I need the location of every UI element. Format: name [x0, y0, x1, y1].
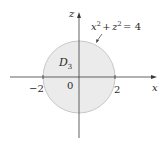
z-axis-label: z	[68, 8, 75, 19]
x-axis-arrow-icon	[151, 75, 157, 79]
tick-label-pos-2: 2	[114, 84, 120, 95]
disk-diagram: z x x2+z2= 4 D3 −2 0 2	[0, 0, 166, 145]
equation-label: x2+z2= 4	[91, 20, 141, 32]
x-axis-label: x	[152, 82, 158, 93]
z-axis-arrow-icon	[77, 12, 81, 18]
diagram-canvas: z x x2+z2= 4 D3 −2 0 2	[0, 0, 166, 145]
tick-label-neg-2: −2	[29, 83, 44, 94]
origin-label: 0	[67, 80, 73, 91]
pointer-arrowhead-icon	[96, 39, 99, 43]
